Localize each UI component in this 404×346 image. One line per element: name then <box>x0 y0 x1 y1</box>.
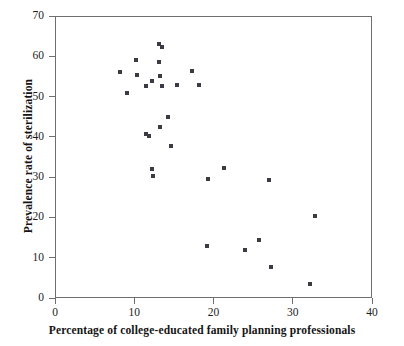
data-point <box>151 174 155 178</box>
data-point <box>197 83 201 87</box>
data-point <box>158 125 162 129</box>
data-point <box>243 248 247 252</box>
data-point <box>125 91 129 95</box>
x-axis-tick <box>292 298 293 304</box>
scatter-plot-figure: Prevalence rate of sterilization 0102030… <box>0 0 404 346</box>
y-axis-tick-label: 30 <box>14 171 44 183</box>
data-point <box>166 115 170 119</box>
data-point <box>118 70 122 74</box>
data-point <box>257 238 261 242</box>
plot-area <box>55 16 372 298</box>
data-point <box>150 167 154 171</box>
data-point <box>160 84 164 88</box>
y-axis-tick-label: 70 <box>14 10 44 22</box>
y-axis-tick-label: 50 <box>14 91 44 103</box>
data-point <box>206 177 210 181</box>
data-point <box>267 178 271 182</box>
y-axis-tick-label: 10 <box>14 252 44 264</box>
x-axis-tick <box>55 298 56 304</box>
y-axis-tick-label: 0 <box>14 292 44 304</box>
data-point <box>175 83 179 87</box>
data-point <box>169 144 173 148</box>
y-axis-tick-label: 20 <box>14 211 44 223</box>
x-axis-tick-label: 0 <box>40 307 70 319</box>
x-axis-tick-label: 10 <box>119 307 149 319</box>
data-point <box>222 166 226 170</box>
data-point <box>313 214 317 218</box>
data-point <box>150 79 154 83</box>
data-point <box>190 69 194 73</box>
y-axis-tick-label: 60 <box>14 50 44 62</box>
x-axis-tick-label: 30 <box>278 307 308 319</box>
data-point <box>135 73 139 77</box>
data-point <box>269 265 273 269</box>
y-axis-tick-label: 40 <box>14 131 44 143</box>
data-point <box>134 58 138 62</box>
data-point <box>157 60 161 64</box>
x-axis-tick <box>372 298 373 304</box>
x-axis-tick <box>134 298 135 304</box>
x-axis-tick <box>213 298 214 304</box>
data-point <box>144 84 148 88</box>
data-point <box>147 134 151 138</box>
x-axis-title: Percentage of college-educated family pl… <box>0 324 404 336</box>
y-axis-title: Prevalence rate of sterilization <box>22 36 34 276</box>
data-point <box>158 74 162 78</box>
data-point <box>205 244 209 248</box>
x-axis-tick-label: 20 <box>199 307 229 319</box>
data-point <box>308 282 312 286</box>
x-axis-tick-label: 40 <box>357 307 387 319</box>
data-points-layer <box>56 17 371 297</box>
data-point <box>160 45 164 49</box>
